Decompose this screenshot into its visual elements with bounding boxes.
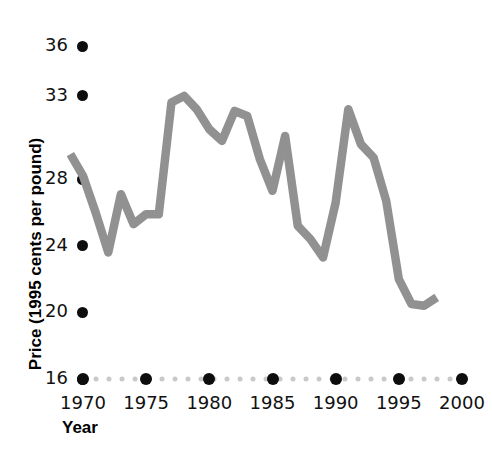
plot-area [0, 0, 492, 461]
price-line-chart: Price (1995 cents per pound) Year 363328… [0, 0, 492, 461]
price-series-line [70, 96, 436, 306]
